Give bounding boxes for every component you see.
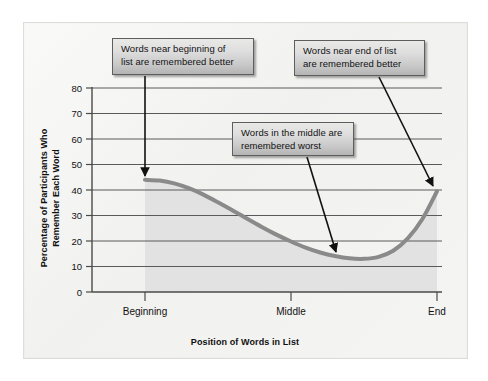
- callout-middle: Words in the middle are remembered worst: [232, 122, 354, 156]
- serial-position-curve-figure: 80 70 60 50 40 30 20 10 0 Beginning Midd…: [0, 0, 488, 381]
- curve-fill-group: [145, 180, 437, 292]
- arrow-end: [379, 77, 433, 186]
- x-tick-label-middle: Middle: [251, 306, 331, 317]
- curve-area-fill: [145, 180, 437, 292]
- y-axis-title: Percentage of Participants Who Remember …: [39, 106, 62, 291]
- y-tick-label-80: 80: [56, 83, 82, 94]
- callout-beginning: Words near beginning of list are remembe…: [112, 38, 254, 75]
- callout-end: Words near end of list are remembered be…: [294, 40, 425, 76]
- arrow-middle: [307, 157, 336, 252]
- x-tick-label-beginning: Beginning: [105, 306, 185, 317]
- y-axis-title-container: Percentage of Participants Who Remember …: [39, 106, 65, 291]
- x-tick-marks: [145, 292, 437, 301]
- x-axis-title: Position of Words in List: [145, 337, 345, 347]
- x-tick-label-end: End: [397, 306, 477, 317]
- y-tick-marks: [86, 88, 92, 292]
